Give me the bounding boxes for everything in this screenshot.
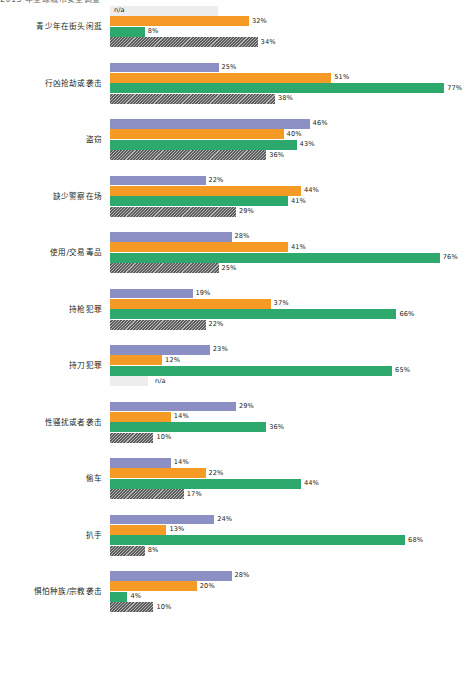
chart-group: 缺少警察在场22%44%41%29% — [0, 176, 467, 233]
chart-group: 行凶抢劫或袭击25%51%77%38% — [0, 63, 467, 120]
bar-series-2 — [110, 16, 249, 26]
bar-stack: 22%44%41%29% — [110, 176, 467, 218]
bar-row: 41% — [110, 242, 467, 252]
bar-value-label: 13% — [166, 525, 184, 534]
bar-value-label: 17% — [184, 490, 202, 499]
bar-stack: 14%22%44%17% — [110, 458, 467, 500]
bar-series-1 — [110, 119, 310, 129]
bar-series-2 — [110, 468, 206, 478]
bar-value-label: 76% — [440, 253, 458, 262]
bar-series-4 — [110, 263, 219, 273]
bar-na — [110, 6, 218, 16]
bar-value-label: 28% — [232, 571, 250, 580]
bar-series-2 — [110, 73, 331, 83]
bar-row: 14% — [110, 458, 467, 468]
category-label: 偷车 — [0, 474, 102, 483]
bar-row: 12% — [110, 355, 467, 365]
chart-group: 持枪犯罪19%37%66%22% — [0, 289, 467, 346]
bar-value-label: 10% — [153, 433, 171, 442]
bar-series-4 — [110, 94, 275, 104]
bar-series-4 — [110, 433, 153, 443]
category-label: 盗窃 — [0, 135, 102, 144]
bar-row: 41% — [110, 196, 467, 206]
bar-row: 10% — [110, 433, 467, 443]
bar-row: 29% — [110, 402, 467, 412]
bar-value-label: n/a — [110, 6, 125, 15]
bar-series-2 — [110, 186, 301, 196]
bar-row: 25% — [110, 263, 467, 273]
bar-series-4 — [110, 602, 153, 612]
bar-value-label: n/a — [152, 377, 166, 386]
bar-row: 23% — [110, 345, 467, 355]
bar-series-4 — [110, 150, 266, 160]
bar-row: 51% — [110, 73, 467, 83]
bar-series-3 — [110, 422, 266, 432]
bar-row: 22% — [110, 320, 467, 330]
bar-series-2 — [110, 129, 284, 139]
bar-series-4 — [110, 207, 236, 217]
bar-series-3 — [110, 83, 444, 93]
category-label: 持刀犯罪 — [0, 361, 102, 370]
bar-value-label: 22% — [206, 176, 224, 185]
category-label: 性骚扰或者袭击 — [0, 418, 102, 427]
bar-stack: 29%14%36%10% — [110, 402, 467, 444]
bar-stack: 46%40%43%36% — [110, 119, 467, 161]
bar-value-label: 24% — [214, 515, 232, 524]
bar-value-label: 14% — [171, 458, 189, 467]
bar-row: 29% — [110, 207, 467, 217]
bar-series-3 — [110, 253, 440, 263]
bar-row: 38% — [110, 94, 467, 104]
bar-series-3 — [110, 196, 288, 206]
bar-series-3 — [110, 592, 127, 602]
bar-row: 4% — [110, 592, 467, 602]
bar-row: 66% — [110, 309, 467, 319]
bar-value-label: 44% — [301, 479, 319, 488]
bar-value-label: 8% — [145, 546, 159, 555]
bar-row: 22% — [110, 468, 467, 478]
bar-value-label: 29% — [236, 402, 254, 411]
bar-row: 44% — [110, 186, 467, 196]
category-label: 持枪犯罪 — [0, 305, 102, 314]
bar-value-label: 40% — [284, 130, 302, 139]
chart-group: 青少年在街头闲逛n/a32%8%34% — [0, 6, 467, 63]
bar-row: 28% — [110, 571, 467, 581]
bar-series-4 — [110, 320, 206, 330]
chart-group: 性骚扰或者袭击29%14%36%10% — [0, 402, 467, 459]
bar-series-2 — [110, 355, 162, 365]
bar-value-label: 41% — [288, 197, 306, 206]
bar-row: 46% — [110, 119, 467, 129]
bar-stack: 23%12%65%n/a — [110, 345, 467, 387]
bar-value-label: 77% — [444, 84, 462, 93]
bar-value-label: 8% — [145, 27, 159, 36]
bar-value-label: 51% — [331, 73, 349, 82]
bar-row: 13% — [110, 525, 467, 535]
chart-group: 盗窃46%40%43%36% — [0, 119, 467, 176]
bar-series-3 — [110, 27, 145, 37]
bar-value-label: 4% — [127, 592, 141, 601]
bar-stack: 28%20%4%10% — [110, 571, 467, 613]
category-label: 使用/交易毒品 — [0, 248, 102, 257]
bar-row: 22% — [110, 176, 467, 186]
bar-row: 34% — [110, 37, 467, 47]
chart-group: 扒手24%13%68%8% — [0, 515, 467, 572]
bar-row: n/a — [110, 6, 467, 16]
category-label: 惧怕种族/宗教袭击 — [0, 587, 102, 596]
bar-series-2 — [110, 299, 271, 309]
bar-series-1 — [110, 63, 219, 73]
category-label: 青少年在街头闲逛 — [0, 22, 102, 31]
bar-na — [110, 376, 148, 386]
bar-row: 28% — [110, 232, 467, 242]
bar-value-label: 29% — [236, 207, 254, 216]
bar-row: 25% — [110, 63, 467, 73]
category-label: 行凶抢劫或袭击 — [0, 79, 102, 88]
bar-row: 24% — [110, 515, 467, 525]
bar-row: 65% — [110, 366, 467, 376]
bar-row: 14% — [110, 412, 467, 422]
category-label: 扒手 — [0, 531, 102, 540]
bar-row: 36% — [110, 422, 467, 432]
bar-value-label: 22% — [206, 469, 224, 478]
bar-row: 36% — [110, 150, 467, 160]
bar-row: 40% — [110, 129, 467, 139]
bar-stack: n/a32%8%34% — [110, 6, 467, 48]
chart-group: 使用/交易毒品28%41%76%25% — [0, 232, 467, 289]
